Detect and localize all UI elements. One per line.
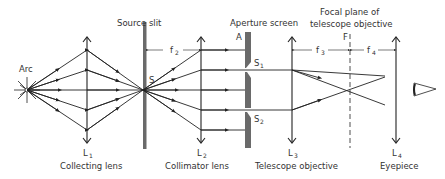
aperture-caption: Aperture screen: [230, 18, 298, 28]
l2-caption: Collimator lens: [165, 161, 229, 171]
l4-symbol: L: [392, 148, 397, 158]
l4-subscript: 4: [398, 152, 402, 159]
focal-plane-caption-1: Focal plane of: [320, 7, 380, 17]
eyepiece-l4: [392, 37, 400, 143]
l3-subscript: 3: [294, 152, 298, 159]
telescope-objective-l3: [288, 37, 296, 143]
arc-label: Arc: [19, 64, 33, 74]
f2-symbol: f: [170, 45, 174, 55]
eye-icon: [414, 83, 436, 96]
s1-subscript: 1: [260, 62, 264, 69]
s1-label: S: [254, 58, 259, 68]
l3-caption: Telescope objective: [254, 161, 338, 171]
f3-symbol: f: [316, 45, 320, 55]
focal-plane-label: F: [343, 32, 348, 42]
l3-symbol: L: [288, 148, 293, 158]
rays-converging: [292, 70, 385, 110]
f4-symbol: f: [367, 45, 371, 55]
source-slit-caption: Source slit: [117, 18, 162, 28]
rays-collecting: [27, 50, 143, 130]
l2-subscript: 2: [203, 152, 207, 159]
s2-label: S: [254, 114, 259, 124]
s2-subscript: 2: [260, 118, 264, 125]
aperture-screen: [245, 32, 251, 148]
l4-caption: Eyepiece: [380, 161, 419, 171]
l1-subscript: 1: [89, 152, 93, 159]
l2-symbol: L: [197, 148, 202, 158]
l1-symbol: L: [83, 148, 88, 158]
l1-caption: Collecting lens: [60, 161, 123, 171]
aperture-edge-label: A: [236, 32, 242, 42]
focal-plane-caption-2: telescope objective: [310, 19, 393, 29]
f4-subscript: 4: [372, 49, 376, 56]
f3-subscript: 3: [321, 49, 325, 56]
f2-subscript: 2: [175, 49, 179, 56]
source-slit: [143, 22, 147, 149]
rays-collimated: [143, 50, 292, 130]
optics-diagram: Arc L 1 Collecting lens Source slit S: [0, 0, 445, 179]
